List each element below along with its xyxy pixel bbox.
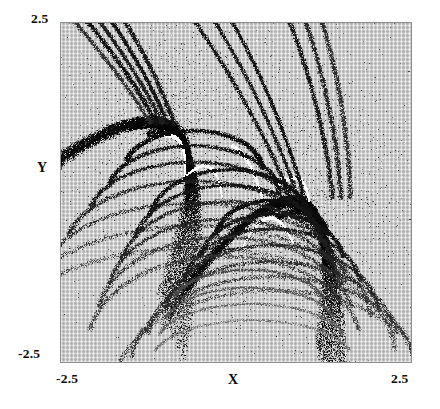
fractal-basin-canvas: [61, 23, 412, 363]
y-axis-max-label: 2.5: [31, 12, 48, 26]
fractal-figure: 2.5 -2.5 Y -2.5 X 2.5: [0, 0, 440, 409]
y-axis-min-label: -2.5: [18, 347, 40, 361]
x-axis-min-label: -2.5: [56, 372, 78, 386]
y-axis-title: Y: [37, 161, 47, 175]
x-axis-title: X: [228, 373, 238, 387]
x-axis-max-label: 2.5: [391, 372, 408, 386]
plot-area: [60, 22, 412, 363]
